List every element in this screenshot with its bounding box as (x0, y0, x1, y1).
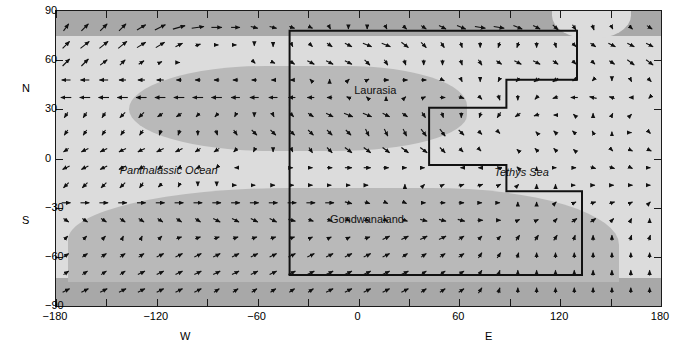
x-tick (308, 299, 309, 306)
x-tick-top (106, 11, 107, 18)
x-tick-top (510, 11, 511, 18)
x-tick-label: −180 (43, 310, 68, 322)
y-tick-right (654, 109, 661, 110)
x-tick (560, 299, 561, 306)
x-tick (510, 299, 511, 306)
y-tick-right (654, 159, 661, 160)
label-tethys-sea: Tethys Sea (494, 166, 549, 178)
x-tick (157, 299, 158, 306)
x-tick-top (409, 11, 410, 18)
y-tick-right (654, 257, 661, 258)
x-axis-label-east: E (485, 330, 492, 342)
x-tick (258, 299, 259, 306)
x-tick-top (560, 11, 561, 18)
x-tick-top (611, 11, 612, 18)
x-tick-top (459, 11, 460, 18)
y-tick-right (654, 60, 661, 61)
x-tick-label: −120 (143, 310, 168, 322)
y-tick (56, 159, 63, 160)
plot-area: Laurasia Panthalassic Ocean Tethys Sea G… (55, 10, 662, 307)
y-axis-label-north: N (22, 82, 30, 94)
x-tick (459, 299, 460, 306)
x-tick-label: −60 (247, 310, 266, 322)
x-tick-top (258, 11, 259, 18)
x-tick-top (207, 11, 208, 18)
y-tick-right (654, 208, 661, 209)
x-tick (661, 299, 662, 306)
x-tick (611, 299, 612, 306)
x-tick-label: 120 (550, 310, 568, 322)
x-tick (106, 299, 107, 306)
x-tick-top (359, 11, 360, 18)
x-tick (207, 299, 208, 306)
wind-vector-map-figure: Laurasia Panthalassic Ocean Tethys Sea G… (0, 0, 679, 356)
wind-vector-field (56, 11, 661, 306)
label-gondwanaland: Gondwanaland (330, 213, 404, 225)
x-tick-top (157, 11, 158, 18)
x-tick-label: 60 (452, 310, 464, 322)
label-panthalassic-ocean: Panthalassic Ocean (120, 164, 218, 176)
y-tick (56, 60, 63, 61)
y-tick (56, 109, 63, 110)
x-tick (409, 299, 410, 306)
x-tick-top (661, 11, 662, 18)
arrow-group (61, 24, 653, 293)
pangea-outline (290, 31, 582, 275)
x-tick-label: 180 (651, 310, 669, 322)
x-tick (359, 299, 360, 306)
label-laurasia: Laurasia (354, 84, 396, 96)
x-tick-label: 0 (354, 310, 360, 322)
x-axis-label-west: W (180, 330, 190, 342)
y-axis-label-south: S (22, 214, 29, 226)
x-tick-top (308, 11, 309, 18)
